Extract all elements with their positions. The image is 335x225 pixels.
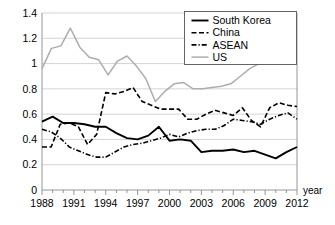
series-line-asean	[42, 113, 297, 157]
legend-label-south-korea: South Korea	[213, 14, 272, 26]
x-axis-tick-label: 2000	[158, 197, 182, 209]
x-axis-tick-label: 1994	[94, 197, 118, 209]
x-axis-tick-label: 2012	[285, 197, 309, 209]
y-axis-tick-label: 1.2	[22, 32, 37, 44]
x-axis-tick-label: 1991	[62, 197, 86, 209]
y-axis-tick-label: 1.4	[22, 7, 37, 19]
series-line-china	[42, 88, 297, 147]
legend-label-asean: ASEAN	[213, 39, 249, 51]
legend-label-china: China	[213, 26, 241, 38]
line-chart: 00.20.40.60.811.21.419881991199419972000…	[0, 0, 335, 225]
y-axis-tick-label: 0	[31, 184, 37, 196]
y-axis-tick-label: 0.2	[22, 158, 37, 170]
x-axis-tick-label: 2009	[253, 197, 277, 209]
y-axis-tick-label: 0.8	[22, 83, 37, 95]
x-axis-tick-label: 1988	[30, 197, 54, 209]
y-axis-tick-label: 0.4	[22, 133, 37, 145]
chart-canvas: 00.20.40.60.811.21.419881991199419972000…	[0, 0, 335, 225]
y-axis-tick-label: 1	[31, 57, 37, 69]
legend-label-us: US	[213, 51, 228, 63]
y-axis-tick-label: 0.6	[22, 108, 37, 120]
x-axis-tick-label: 2003	[190, 197, 214, 209]
x-axis-tick-label: 2006	[222, 197, 246, 209]
x-axis-tick-label: 1997	[126, 197, 150, 209]
x-axis-name-label: year	[303, 185, 323, 196]
